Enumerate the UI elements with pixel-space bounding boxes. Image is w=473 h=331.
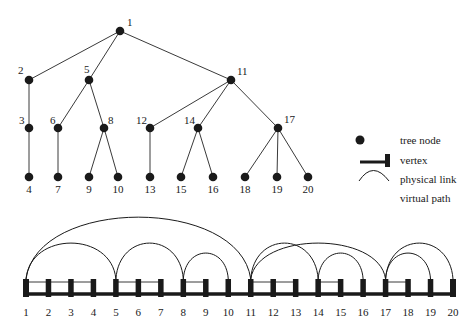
tree-nodes — [25, 27, 313, 182]
tree-node-label: 7 — [55, 183, 61, 195]
vertex — [383, 279, 389, 297]
linear-array: 1234567891011121314151617181920 — [23, 217, 459, 318]
vertex — [91, 279, 97, 297]
tree-node — [85, 76, 94, 85]
tree-edge — [104, 128, 118, 177]
vertex-label: 6 — [136, 306, 142, 318]
vertex-label: 18 — [403, 306, 415, 318]
tree-node-label: 17 — [284, 113, 296, 125]
vertex-label: 7 — [158, 306, 164, 318]
vertex — [46, 279, 52, 297]
vertex-label: 16 — [358, 306, 370, 318]
tree-node — [114, 173, 123, 182]
legend-tree-node-icon — [356, 136, 365, 145]
virtual-path-arc — [251, 243, 386, 279]
vertex-label: 5 — [113, 306, 119, 318]
tree-node-label: 2 — [18, 64, 24, 76]
legend-vertex-label: vertex — [400, 154, 428, 166]
virtual-path-arc — [318, 253, 363, 279]
tree-node-label: 4 — [26, 183, 32, 195]
tree-node — [25, 124, 34, 133]
vertex — [405, 279, 411, 297]
vertex-label: 10 — [223, 306, 235, 318]
virtual-path-arc — [386, 243, 453, 279]
legend-virtual-path-label: virtual path — [400, 192, 451, 204]
tree-edge — [181, 128, 198, 177]
vertex — [68, 279, 74, 297]
tree-node-label: 9 — [86, 183, 92, 195]
vertex-label: 9 — [203, 306, 209, 318]
virtual-paths — [26, 217, 453, 279]
vertex-label: 15 — [335, 306, 347, 318]
tree-node-label: 11 — [237, 65, 248, 77]
tree-node-label: 18 — [240, 183, 252, 195]
tree-labels: 1251136812141747910131516181920 — [18, 16, 314, 195]
vertex — [360, 279, 366, 297]
legend-physical-link-label: physical link — [400, 173, 457, 185]
vertex-label: 2 — [46, 306, 52, 318]
tree-node — [85, 173, 94, 182]
vertex-label: 8 — [181, 306, 187, 318]
vertex-label: 17 — [380, 306, 392, 318]
vertex-label: 14 — [313, 306, 325, 318]
vertex — [181, 279, 187, 297]
vertex — [450, 279, 456, 297]
tree-node-label: 3 — [19, 114, 25, 126]
tree-node — [25, 76, 34, 85]
tree-edge — [277, 128, 278, 177]
tree-node — [25, 173, 34, 182]
vertex — [23, 279, 29, 297]
tree-node-label: 5 — [84, 63, 90, 75]
tree-edge — [120, 31, 231, 80]
tree-edge — [89, 31, 120, 80]
tree-edge — [89, 128, 104, 177]
vertex — [136, 279, 142, 297]
vertex-label: 20 — [448, 306, 460, 318]
virtual-path-arc — [26, 217, 251, 279]
tree-node — [177, 173, 186, 182]
vertex — [248, 279, 254, 297]
tree-node-label: 6 — [50, 114, 56, 126]
tree-edges — [29, 31, 308, 177]
vertex — [315, 279, 321, 297]
vertex-label: 4 — [91, 306, 97, 318]
legend-virtual-path-icon — [359, 171, 389, 182]
vertex-label: 1 — [23, 306, 29, 318]
tree-node — [273, 173, 282, 182]
tree-node-label: 12 — [136, 114, 147, 126]
tree-edge — [89, 80, 104, 128]
tree-edge — [198, 80, 231, 128]
tree-node — [241, 173, 250, 182]
tree-node-label: 19 — [272, 183, 284, 195]
tree-node — [146, 173, 155, 182]
tree-node-label: 1 — [127, 16, 133, 28]
vertex — [203, 279, 209, 297]
tree-node — [100, 124, 109, 133]
virtual-path-arc — [26, 243, 116, 279]
tree-node — [116, 27, 125, 36]
tree-node — [209, 173, 218, 182]
vertex-label: 3 — [68, 306, 74, 318]
tree-node — [304, 173, 313, 182]
vertex — [158, 279, 164, 297]
tree-node — [274, 124, 283, 133]
vertex — [226, 279, 232, 297]
virtual-path-arc — [116, 243, 183, 279]
tree-node — [54, 173, 63, 182]
tree-node-label: 16 — [208, 183, 220, 195]
tree-node-label: 15 — [176, 183, 188, 195]
legend: tree node vertex physical link virtual p… — [356, 134, 458, 204]
vertex-label: 19 — [425, 306, 437, 318]
vertex — [428, 279, 434, 297]
tree-edge — [58, 80, 89, 128]
tree-edge — [245, 128, 278, 177]
vertex — [293, 279, 299, 297]
vertex-label: 13 — [290, 306, 302, 318]
vertex — [338, 279, 344, 297]
vertex — [270, 279, 276, 297]
tree-node-label: 8 — [108, 114, 114, 126]
tree-node-label: 13 — [145, 183, 157, 195]
vertex-label: 12 — [268, 306, 279, 318]
vertex-label: 11 — [245, 306, 256, 318]
tree-edge — [29, 31, 120, 80]
